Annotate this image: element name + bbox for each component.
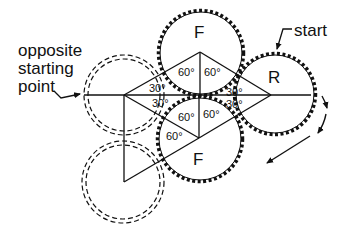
angle-right-upper: 30°	[226, 86, 243, 98]
rotation-arc-arrow-icon-2	[318, 114, 326, 133]
start-leader-arrow-icon	[277, 29, 292, 49]
rotation-arc-arrow-icon	[322, 96, 327, 108]
label-opposite: opposite	[18, 41, 82, 60]
angle-right-lower: 30°	[226, 98, 243, 110]
label-point: point	[18, 77, 55, 96]
angle-top-left: 60°	[178, 66, 195, 78]
angle-bottom-left-upper: 60°	[178, 111, 195, 123]
angle-left-lower: 30°	[152, 97, 169, 109]
ghost-gear-lower	[82, 141, 164, 223]
gear-label-rear: R	[268, 68, 280, 87]
gear-label-front-top: F	[194, 23, 204, 42]
angle-top-right: 60°	[204, 66, 221, 78]
gear-rotation-diagram: F F R 60° 60° 60° 60° 60° 30° 30° 30° 30…	[0, 0, 348, 240]
rotation-direction-arrow-icon	[267, 136, 310, 163]
angle-bottom-left-lower: 60°	[166, 130, 183, 142]
label-start: start	[294, 21, 327, 40]
angle-left-upper: 30°	[149, 82, 166, 94]
gear-rear	[235, 54, 316, 135]
opposite-leader-arrow-icon	[54, 91, 80, 98]
angle-bottom-right-upper: 60°	[203, 108, 220, 120]
gear-label-front-bottom: F	[193, 150, 203, 169]
label-starting: starting	[18, 59, 74, 78]
